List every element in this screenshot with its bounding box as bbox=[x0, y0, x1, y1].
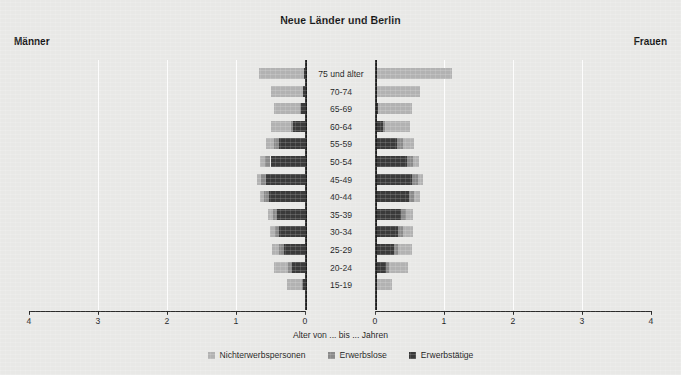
bar-segment bbox=[376, 68, 453, 79]
bar-segment bbox=[274, 262, 288, 273]
men-x-1-tick bbox=[236, 311, 237, 315]
zero-axis-women bbox=[375, 60, 377, 310]
bar-segment bbox=[414, 191, 420, 202]
bar-segment bbox=[375, 156, 407, 167]
bar-segment bbox=[271, 121, 291, 132]
legend-item[interactable]: Erwerbstätige bbox=[409, 350, 474, 360]
bar-segment bbox=[403, 138, 414, 149]
women-x-1-tick-label: 1 bbox=[432, 316, 456, 326]
men-x-2-tick-label: 2 bbox=[155, 316, 179, 326]
bar-segment bbox=[378, 103, 412, 114]
bar-segment bbox=[279, 244, 283, 255]
age-group-label: 30-34 bbox=[307, 224, 375, 241]
x-axis-label: Alter von ... bis ... Jahren bbox=[0, 330, 681, 340]
men-x-3-tick bbox=[98, 311, 99, 315]
men-x-3-tick-label: 3 bbox=[86, 316, 110, 326]
bar-segment bbox=[376, 86, 419, 97]
bar-segment bbox=[375, 244, 394, 255]
women-x-3-tick bbox=[582, 311, 583, 315]
bar-segment bbox=[266, 174, 305, 185]
legend-item[interactable]: Erwerbslose bbox=[328, 350, 387, 360]
men-x-2-tick bbox=[167, 311, 168, 315]
bar-segment bbox=[260, 191, 264, 202]
bar-segment bbox=[293, 121, 305, 132]
bar-segment bbox=[260, 156, 265, 167]
women-x-4-tick bbox=[651, 311, 652, 315]
women-x-3-tick-label: 3 bbox=[570, 316, 594, 326]
bar-segment bbox=[261, 174, 267, 185]
bar-segment bbox=[375, 191, 409, 202]
women-x-2-tick bbox=[513, 311, 514, 315]
men-x-4-tick bbox=[29, 311, 30, 315]
women-x-0-tick-label: 0 bbox=[363, 316, 387, 326]
men-x-4-tick-label: 4 bbox=[17, 316, 41, 326]
legend-label: Nichterwerbspersonen bbox=[220, 350, 306, 360]
bar-segment bbox=[418, 174, 424, 185]
age-group-label: 40-44 bbox=[307, 189, 375, 206]
women-x-4-tick-label: 4 bbox=[639, 316, 663, 326]
chart-canvas: Neue Länder und Berlin Männer Frauen 75 … bbox=[0, 0, 681, 375]
bar-segment bbox=[398, 244, 412, 255]
women-x-1-tick bbox=[444, 311, 445, 315]
women-x-2-tick-label: 2 bbox=[501, 316, 525, 326]
bar-segment bbox=[375, 138, 397, 149]
men-x-1-tick-label: 1 bbox=[224, 316, 248, 326]
women-side-label: Frauen bbox=[634, 36, 667, 47]
bar-segment bbox=[279, 226, 305, 237]
age-group-label: 65-69 bbox=[307, 101, 375, 118]
legend-label: Erwerbstätige bbox=[421, 350, 474, 360]
bar-segment bbox=[279, 138, 305, 149]
bar-segment bbox=[291, 121, 294, 132]
age-group-label: 20-24 bbox=[307, 260, 375, 277]
men-side-label: Männer bbox=[14, 36, 50, 47]
legend-swatch-icon bbox=[409, 352, 416, 359]
plot-area: 75 und älter70-7465-6960-6455-5950-5445-… bbox=[0, 60, 681, 310]
bar-segment bbox=[271, 86, 303, 97]
bar-segment bbox=[270, 226, 275, 237]
bar-segment bbox=[375, 209, 401, 220]
men-x-0-tick bbox=[305, 311, 306, 315]
bar-segment bbox=[389, 262, 408, 273]
bar-segment bbox=[274, 138, 279, 149]
bar-segment bbox=[277, 209, 305, 220]
age-group-label: 35-39 bbox=[307, 207, 375, 224]
bar-segment bbox=[375, 174, 412, 185]
bar-segment bbox=[273, 209, 277, 220]
bar-segment bbox=[287, 279, 302, 290]
chart-title: Neue Länder und Berlin bbox=[0, 14, 681, 26]
legend-swatch-icon bbox=[208, 352, 215, 359]
bar-segment bbox=[274, 103, 300, 114]
age-group-label: 50-54 bbox=[307, 154, 375, 171]
bar-segment bbox=[275, 226, 279, 237]
bar-segment bbox=[385, 121, 410, 132]
bar-segment bbox=[284, 244, 305, 255]
bar-segment bbox=[259, 68, 305, 79]
age-group-label: 75 und älter bbox=[307, 66, 375, 83]
bar-segment bbox=[300, 103, 301, 114]
bar-segment bbox=[403, 226, 413, 237]
bar-segment bbox=[264, 191, 269, 202]
bar-segment bbox=[272, 244, 280, 255]
age-group-label: 60-64 bbox=[307, 119, 375, 136]
bar-segment bbox=[292, 262, 305, 273]
bar-segment bbox=[413, 156, 419, 167]
legend: NichterwerbspersonenErwerbsloseErwerbstä… bbox=[0, 350, 681, 360]
bar-segment bbox=[375, 226, 398, 237]
bar-segment bbox=[288, 262, 291, 273]
age-group-label: 25-29 bbox=[307, 242, 375, 259]
bar-segment bbox=[265, 156, 271, 167]
bar-segment bbox=[257, 174, 260, 185]
bar-segment bbox=[377, 279, 392, 290]
bar-segment bbox=[302, 279, 303, 290]
legend-item[interactable]: Nichterwerbspersonen bbox=[208, 350, 306, 360]
bar-segment bbox=[271, 156, 306, 167]
bar-segment bbox=[406, 209, 413, 220]
bar-segment bbox=[266, 138, 274, 149]
legend-swatch-icon bbox=[328, 352, 335, 359]
age-group-label: 15-19 bbox=[307, 277, 375, 294]
women-x-0-tick bbox=[375, 311, 376, 315]
age-group-label: 70-74 bbox=[307, 84, 375, 101]
men-x-0-tick-label: 0 bbox=[293, 316, 317, 326]
bar-segment bbox=[268, 209, 272, 220]
age-group-label: 45-49 bbox=[307, 172, 375, 189]
